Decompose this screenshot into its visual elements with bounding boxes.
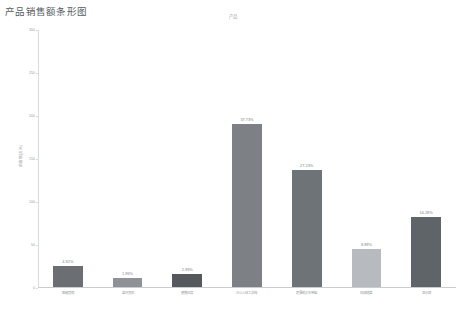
y-axis-tick-label: 100: [29, 200, 35, 204]
bar[interactable]: [113, 278, 143, 287]
bar[interactable]: [232, 124, 262, 287]
y-axis-tick-mark: [36, 245, 38, 246]
x-axis-category-label: 显示器: [397, 290, 455, 295]
y-axis-tick-label: 300: [29, 28, 35, 32]
y-axis-tick-mark: [36, 159, 38, 160]
bar-value-label: 16.28%: [411, 210, 441, 215]
y-axis-tick-label: 50: [31, 243, 35, 247]
bar-item[interactable]: 37.73%办公人体工学椅: [232, 29, 262, 287]
bar-item[interactable]: 8.89%机械键盘: [352, 29, 382, 287]
bar-item[interactable]: 16.28%显示器: [411, 29, 441, 287]
bar[interactable]: [172, 274, 202, 287]
y-axis-tick-label: 0: [33, 286, 35, 290]
y-axis-tick-mark: [36, 73, 38, 74]
plot-area: 050100150200250300 4.92%智能音箱1.96%蓝牙耳机2.9…: [38, 30, 456, 288]
bar-item[interactable]: 2.99%便携风扇: [172, 29, 202, 287]
bar-value-label: 1.96%: [113, 271, 143, 276]
y-axis-tick-mark: [36, 116, 38, 117]
x-axis-category-label: 蓝牙耳机: [99, 290, 157, 295]
bar-item[interactable]: 27.23%超薄笔记本电脑: [292, 29, 322, 287]
x-axis-category-label: 智能音箱: [39, 290, 97, 295]
bar[interactable]: [53, 266, 83, 287]
bar[interactable]: [292, 170, 322, 287]
y-axis-tick-label: 150: [29, 157, 35, 161]
y-axis-tick-mark: [36, 202, 38, 203]
x-axis-line: [38, 287, 456, 288]
bar-value-label: 27.23%: [292, 163, 322, 168]
chart-title: 产品: [0, 13, 466, 19]
bar[interactable]: [411, 217, 441, 287]
y-axis-tick-mark: [36, 288, 38, 289]
y-axis-tick-mark: [36, 30, 38, 31]
y-axis-tick-label: 250: [29, 71, 35, 75]
bar-chart: 产品 销售额(万元) 050100150200250300 4.92%智能音箱1…: [0, 0, 466, 311]
bar-value-label: 8.89%: [352, 242, 382, 247]
bar[interactable]: [352, 249, 382, 287]
bar-item[interactable]: 4.92%智能音箱: [53, 29, 83, 287]
bar-item[interactable]: 1.96%蓝牙耳机: [113, 29, 143, 287]
x-axis-category-label: 便携风扇: [158, 290, 216, 295]
x-axis-category-label: 办公人体工学椅: [218, 290, 276, 295]
bar-value-label: 4.92%: [53, 259, 83, 264]
bar-value-label: 37.73%: [232, 117, 262, 122]
y-axis-line: [38, 30, 39, 288]
bar-value-label: 2.99%: [172, 267, 202, 272]
x-axis-category-label: 超薄笔记本电脑: [278, 290, 336, 295]
y-axis-tick-label: 200: [29, 114, 35, 118]
x-axis-category-label: 机械键盘: [338, 290, 396, 295]
y-axis-title: 销售额(万元): [18, 144, 23, 166]
